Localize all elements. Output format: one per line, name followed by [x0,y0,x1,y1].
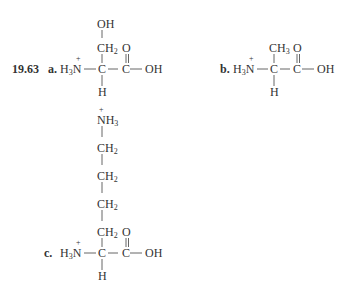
hydroxyl-group: OH [317,63,334,75]
side-chain-oh: OH [97,18,114,30]
amine-group: H3N [60,63,81,75]
problem-number: 19.63 [12,63,39,75]
carbonyl-oxygen: O [293,42,302,54]
alpha-hydrogen: H [98,86,107,98]
positive-charge: + [99,106,104,114]
alpha-hydrogen: H [270,86,279,98]
side-chain-ch2: CH2 [97,142,118,154]
part-label-a: a. [48,63,57,75]
side-chain-ch2: CH2 [97,226,118,238]
carbonyl-oxygen: O [122,42,131,54]
amine-group: H3N [60,247,81,259]
side-chain-ch2: CH2 [97,42,118,54]
side-chain-nh3: NH3 [97,114,118,126]
part-label-c: c. [44,247,52,259]
carboxyl-carbon: C [122,63,130,75]
alpha-carbon: C [98,247,106,259]
carbonyl-oxygen: O [122,226,131,238]
carboxyl-carbon: C [293,63,301,75]
positive-charge: + [76,239,81,247]
part-label-b: b. [220,63,230,75]
amine-group: H3N [233,63,254,75]
side-chain-ch2: CH2 [97,170,118,182]
side-chain-ch2: CH2 [97,198,118,210]
alpha-hydrogen: H [98,270,107,282]
carboxyl-carbon: C [122,247,130,259]
alpha-carbon: C [270,63,278,75]
hydroxyl-group: OH [145,63,162,75]
hydroxyl-group: OH [145,247,162,259]
side-chain-ch3: CH3 [269,42,290,54]
alpha-carbon: C [98,63,106,75]
positive-charge: + [76,55,81,63]
positive-charge: + [249,55,254,63]
